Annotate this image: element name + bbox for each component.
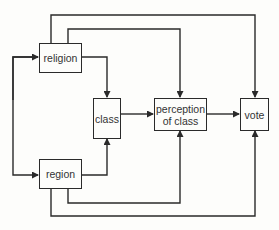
node-region-label: region [46,168,75,180]
edge-region-perception [68,131,180,203]
node-perception-of-class: perception of class [154,98,207,131]
node-religion: religion [39,43,82,73]
node-vote: vote [240,98,269,131]
node-region: region [39,159,82,189]
edge-religion-perception [68,29,180,97]
node-class: class [93,98,121,139]
node-class-label: class [95,113,119,125]
edge-religion-class [82,57,107,97]
edge-region-class [82,139,107,175]
node-perception-label-line2: of class [163,115,199,127]
node-perception-label-line1: perception [156,103,205,115]
node-religion-label: religion [44,52,78,64]
node-vote-label: vote [245,109,265,121]
edge-religion-region-loop [13,57,38,175]
diagram-edges [0,0,279,230]
